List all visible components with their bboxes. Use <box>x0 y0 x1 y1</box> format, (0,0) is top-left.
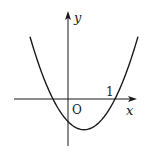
y-axis-label: y <box>73 10 82 25</box>
origin-label: O <box>72 103 82 117</box>
parabola-figure: y x O 1 <box>0 0 148 153</box>
x-axis-label: x <box>126 103 134 118</box>
parabola-curve <box>30 37 138 130</box>
tick-label-1: 1 <box>106 85 114 99</box>
